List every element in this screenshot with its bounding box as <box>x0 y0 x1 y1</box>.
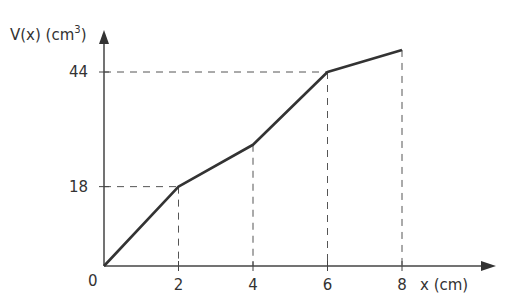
x-axis-arrow-icon <box>481 261 496 271</box>
chart: V(x) (cm3) x (cm) 0 24681844 <box>0 0 510 306</box>
x-tick-label: 4 <box>248 276 258 294</box>
svg-text:V(x) (cm3): V(x) (cm3) <box>10 24 87 44</box>
y-axis-label: V(x) (cm3) <box>10 24 87 44</box>
guide-lines <box>104 50 402 266</box>
ticks: 24681844 <box>69 63 407 294</box>
origin-label: 0 <box>88 272 98 290</box>
x-tick-label: 8 <box>397 276 407 294</box>
x-axis-label: x (cm) <box>420 276 468 294</box>
y-tick-label: 44 <box>69 63 88 81</box>
y-tick-label: 18 <box>69 178 88 196</box>
x-tick-label: 6 <box>323 276 333 294</box>
y-axis-arrow-icon <box>99 30 109 44</box>
x-tick-label: 2 <box>174 276 184 294</box>
